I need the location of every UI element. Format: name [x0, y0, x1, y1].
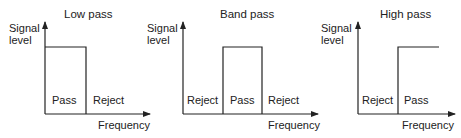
band-pass-x-label: Frequency — [268, 119, 320, 131]
high-pass-y-label-1: Signal — [321, 22, 352, 34]
band-pass-y-label-1: Signal — [147, 22, 178, 34]
band-pass-y-label-2: level — [147, 34, 170, 46]
band-pass-region-pass: Pass — [230, 94, 254, 106]
high-pass-y-label-2: level — [321, 34, 344, 46]
band-pass-region-reject-left: Reject — [187, 94, 218, 106]
low-pass-y-label-1: Signal — [9, 22, 40, 34]
high-pass-x-label: Frequency — [402, 119, 454, 131]
high-pass-region-pass: Pass — [404, 94, 428, 106]
low-pass-region-reject: Reject — [93, 94, 124, 106]
high-pass-title: High pass — [380, 8, 431, 20]
filter-diagrams — [0, 0, 461, 138]
low-pass-y-label-2: level — [9, 34, 32, 46]
band-pass-region-reject-right: Reject — [268, 94, 299, 106]
band-pass-title: Band pass — [220, 8, 274, 20]
high-pass-region-reject: Reject — [362, 94, 393, 106]
low-pass-title: Low pass — [64, 8, 113, 20]
low-pass-x-label: Frequency — [98, 119, 150, 131]
low-pass-region-pass: Pass — [52, 94, 76, 106]
